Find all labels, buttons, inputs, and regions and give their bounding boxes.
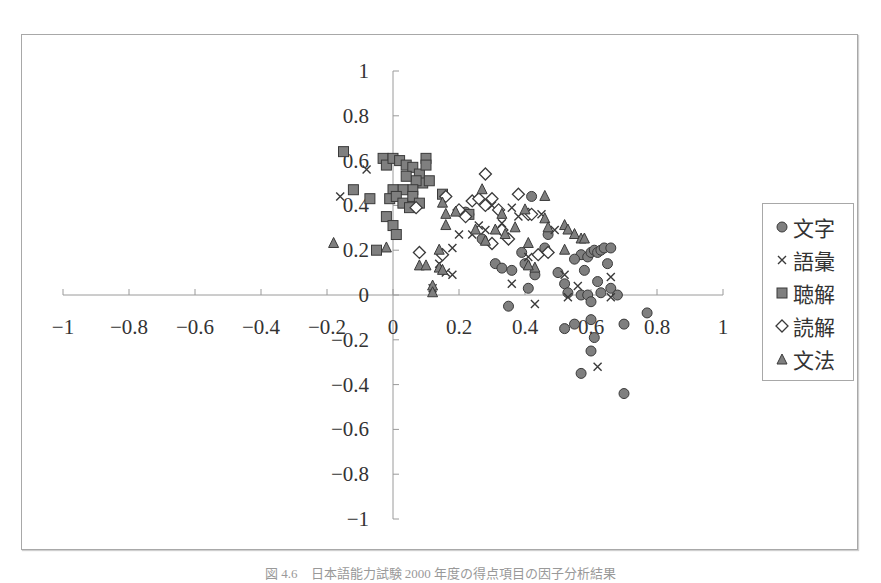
data-point-square	[401, 171, 411, 181]
legend-label: 聴解	[793, 278, 835, 308]
data-point-x	[481, 226, 489, 234]
data-point-triangle	[381, 242, 391, 252]
legend-item-dokkai: 読解	[763, 311, 855, 341]
data-point-triangle	[421, 260, 431, 270]
legend-item-goi: 語彙	[763, 245, 855, 275]
data-point-circle	[504, 301, 514, 311]
data-point-square	[421, 160, 431, 170]
data-point-circle	[619, 389, 629, 399]
data-point-triangle	[329, 237, 339, 247]
legend-item-moji: 文字	[763, 212, 855, 242]
x-tick-label: −0.8	[110, 315, 148, 339]
data-point-circle	[579, 265, 589, 275]
legend-label: 読解	[793, 311, 835, 341]
x-tick-label: 0.4	[512, 315, 539, 339]
data-point-circle	[586, 297, 596, 307]
x-tick-label: 1	[718, 315, 729, 339]
data-point-diamond	[479, 168, 491, 180]
figure-caption: 図 4.6 日本語能力試験 2000 年度の得点項目の因子分析結果	[0, 563, 881, 583]
data-point-square	[372, 245, 382, 255]
data-point-square	[391, 230, 401, 240]
data-point-x	[574, 282, 582, 290]
data-point-circle	[560, 324, 570, 334]
data-point-circle	[570, 319, 580, 329]
y-tick-label: −0.8	[331, 462, 369, 486]
data-point-circle	[586, 315, 596, 325]
legend: 文字 語彙 聴解 読解 文法	[762, 203, 854, 381]
circle-marker-icon	[773, 218, 791, 236]
x-tick-label: −1	[52, 315, 74, 339]
data-point-triangle	[540, 190, 550, 200]
data-point-x	[508, 280, 516, 288]
x-tick-label: 0.8	[644, 315, 670, 339]
y-tick-label: −0.6	[331, 417, 369, 441]
legend-label: 文法	[793, 344, 835, 374]
data-point-circle	[603, 259, 613, 269]
data-point-circle	[507, 265, 517, 275]
data-point-circle	[527, 191, 537, 201]
data-point-circle	[586, 346, 596, 356]
data-point-diamond	[512, 188, 524, 200]
legend-item-bunpou: 文法	[763, 344, 855, 374]
x-tick-label: −0.6	[176, 315, 214, 339]
data-point-circle	[593, 277, 603, 287]
triangle-marker-icon	[773, 350, 791, 368]
data-point-circle	[606, 243, 616, 253]
data-point-circle	[596, 288, 606, 298]
data-point-triangle	[560, 244, 570, 254]
data-point-x	[448, 244, 456, 252]
data-point-circle	[619, 319, 629, 329]
data-point-triangle	[523, 237, 533, 247]
y-tick-label: 0.8	[343, 104, 369, 128]
x-marker-icon	[773, 251, 791, 269]
data-point-circle	[497, 263, 507, 273]
x-tick-label: 0.2	[446, 315, 472, 339]
data-point-circle	[517, 247, 527, 257]
data-point-square	[348, 185, 358, 195]
square-marker-icon	[773, 284, 791, 302]
y-tick-label: −0.2	[331, 328, 369, 352]
x-tick-label: −0.4	[242, 315, 281, 339]
x-tick-label: 0	[388, 315, 399, 339]
data-point-x	[594, 363, 602, 371]
y-tick-label: −0.4	[331, 373, 370, 397]
data-point-x	[455, 231, 463, 239]
y-tick-label: −1	[347, 507, 369, 531]
data-point-circle	[576, 368, 586, 378]
data-point-circle	[570, 254, 580, 264]
data-point-square	[339, 147, 349, 157]
data-point-x	[607, 273, 615, 281]
data-point-triangle	[441, 220, 451, 230]
data-point-x	[448, 271, 456, 279]
legend-label: 語彙	[793, 245, 835, 275]
y-tick-label: 1	[359, 59, 370, 83]
data-point-triangle	[477, 184, 487, 194]
data-point-x	[508, 204, 516, 212]
data-point-triangle	[441, 208, 451, 218]
legend-item-choukai: 聴解	[763, 278, 855, 308]
diamond-marker-icon	[773, 317, 791, 335]
y-tick-label: 0	[359, 283, 370, 307]
data-point-square	[365, 194, 375, 204]
data-point-circle	[523, 283, 533, 293]
y-tick-label: 0.2	[343, 238, 369, 262]
data-point-square	[424, 176, 434, 186]
data-point-circle	[642, 308, 652, 318]
data-point-triangle	[510, 222, 520, 232]
legend-label: 文字	[793, 212, 835, 242]
data-point-x	[531, 300, 539, 308]
data-point-diamond	[413, 246, 425, 258]
data-point-circle	[589, 333, 599, 343]
